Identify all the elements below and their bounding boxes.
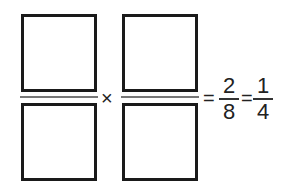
times-operator: × — [101, 88, 113, 108]
fraction2-denominator-box[interactable] — [122, 103, 198, 181]
result-fraction: 2 8 — [219, 75, 239, 123]
result-numerator: 2 — [219, 75, 239, 97]
fraction1-denominator-box[interactable] — [21, 103, 97, 181]
fraction1-numerator-box[interactable] — [21, 14, 97, 92]
simplified-fraction: 1 4 — [253, 75, 273, 123]
fraction1-bar — [20, 96, 98, 98]
equals-sign-2: = — [241, 88, 253, 108]
simplified-numerator: 1 — [253, 75, 273, 97]
equals-sign-1: = — [203, 88, 215, 108]
fraction2-numerator-box[interactable] — [122, 14, 198, 92]
result-denominator: 8 — [219, 101, 239, 123]
simplified-denominator: 4 — [253, 101, 273, 123]
fraction2-bar — [121, 96, 199, 98]
